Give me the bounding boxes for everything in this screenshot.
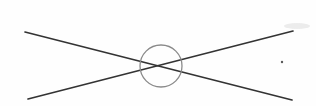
figure-canvas xyxy=(0,0,316,106)
canvas-background xyxy=(0,0,316,106)
diagram-svg xyxy=(0,0,316,106)
ink-speck xyxy=(281,61,283,63)
faint-smudge xyxy=(284,23,310,29)
